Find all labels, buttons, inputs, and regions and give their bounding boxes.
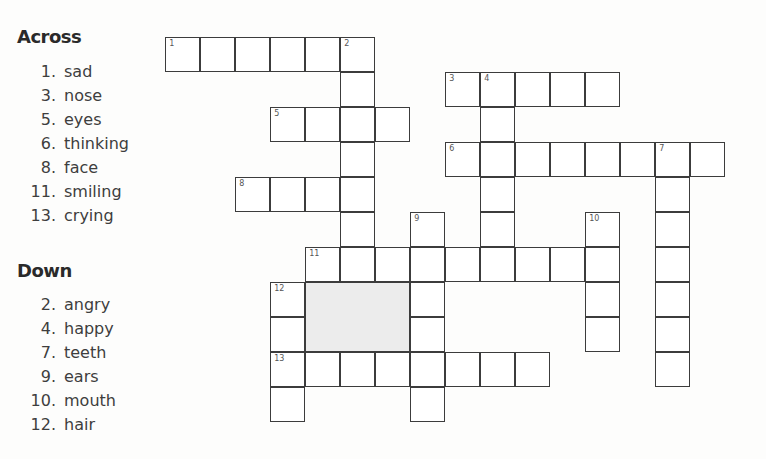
crossword-cell[interactable] [340,72,375,107]
crossword-cell[interactable] [340,177,375,212]
crossword-cell[interactable] [410,387,445,422]
crossword-cell[interactable]: 10 [585,212,620,247]
crossword-cell[interactable] [550,247,585,282]
crossword-cell[interactable]: 9 [410,212,445,247]
crossword-cell[interactable]: 7 [655,142,690,177]
down-clue-list: 2.angry 4.happy 7.teeth 9.ears 10.mouth … [0,293,116,437]
crossword-cell[interactable]: 1 [165,37,200,72]
crossword-cell[interactable] [340,142,375,177]
crossword-cell[interactable] [480,212,515,247]
across-clue: 11.smiling [0,180,129,204]
crossword-cell[interactable] [550,142,585,177]
crossword-cell[interactable] [620,142,655,177]
crossword-cell[interactable] [340,352,375,387]
down-clue: 10.mouth [0,389,116,413]
clue-number: 1 [169,39,174,48]
crossword-cell[interactable] [270,37,305,72]
crossword-cell[interactable] [515,247,550,282]
crossword-cell[interactable] [305,37,340,72]
crossword-cell[interactable] [445,352,480,387]
clue-number: 5 [274,109,279,118]
crossword-cell[interactable] [585,317,620,352]
crossword-cell[interactable]: 11 [305,247,340,282]
crossword-cell[interactable]: 4 [480,72,515,107]
across-clue: 13.crying [0,204,129,228]
down-clue: 2.angry [0,293,116,317]
crossword-cell[interactable] [305,177,340,212]
across-clue: 5.eyes [0,108,129,132]
crossword-cell[interactable] [480,142,515,177]
crossword-cell[interactable] [410,282,445,317]
crossword-cell[interactable] [585,282,620,317]
crossword-cell[interactable] [515,72,550,107]
crossword-cell[interactable] [515,352,550,387]
shaded-block [305,282,410,352]
clue-number: 11 [309,249,319,258]
crossword-cell[interactable] [515,142,550,177]
clue-number: 2 [344,39,349,48]
crossword-cell[interactable] [270,387,305,422]
down-clue: 9.ears [0,365,116,389]
crossword-cell[interactable] [655,352,690,387]
crossword-cell[interactable] [410,352,445,387]
crossword-cell[interactable] [235,37,270,72]
across-clue-list: 1.sad 3.nose 5.eyes 6.thinking 8.face 11… [0,60,129,228]
clue-number: 4 [484,74,489,83]
crossword-cell[interactable] [445,247,480,282]
crossword-cell[interactable] [270,317,305,352]
crossword-cell[interactable] [340,247,375,282]
clue-number: 7 [659,144,664,153]
crossword-cell[interactable] [375,352,410,387]
crossword-cell[interactable] [200,37,235,72]
crossword-cell[interactable] [480,177,515,212]
crossword-cell[interactable]: 3 [445,72,480,107]
clue-number: 9 [414,214,419,223]
crossword-cell[interactable] [655,282,690,317]
across-clue: 1.sad [0,60,129,84]
crossword-cell[interactable]: 6 [445,142,480,177]
crossword-cell[interactable] [305,107,340,142]
clue-number: 12 [274,284,284,293]
crossword-cell[interactable] [585,142,620,177]
crossword-cell[interactable] [270,177,305,212]
across-clue: 8.face [0,156,129,180]
down-clue: 4.happy [0,317,116,341]
down-clue: 7.teeth [0,341,116,365]
crossword-cell[interactable] [655,177,690,212]
crossword-cell[interactable] [340,212,375,247]
crossword-cell[interactable] [585,247,620,282]
across-clue: 6.thinking [0,132,129,156]
down-clue: 12.hair [0,413,116,437]
crossword-cell[interactable]: 5 [270,107,305,142]
crossword-cell[interactable] [655,247,690,282]
crossword-cell[interactable] [655,212,690,247]
clue-number: 3 [449,74,454,83]
clue-number: 10 [589,214,599,223]
crossword-cell[interactable] [305,352,340,387]
clue-number: 6 [449,144,454,153]
crossword-cell[interactable] [690,142,725,177]
crossword-cell[interactable] [585,72,620,107]
across-clue: 3.nose [0,84,129,108]
crossword-cell[interactable]: 13 [270,352,305,387]
crossword-cell[interactable] [375,247,410,282]
crossword-cell[interactable] [655,317,690,352]
crossword-cell[interactable] [480,247,515,282]
crossword-cell[interactable] [550,72,585,107]
crossword-cell[interactable] [480,107,515,142]
crossword-cell[interactable]: 12 [270,282,305,317]
crossword-cell[interactable]: 2 [340,37,375,72]
crossword-cell[interactable] [375,107,410,142]
across-heading: Across [17,26,81,47]
crossword-cell[interactable]: 8 [235,177,270,212]
crossword-cell[interactable] [340,107,375,142]
crossword-cell[interactable] [410,317,445,352]
down-heading: Down [17,260,72,281]
clue-number: 8 [239,179,244,188]
clue-number: 13 [274,354,284,363]
crossword-cell[interactable] [480,352,515,387]
crossword-cell[interactable] [410,247,445,282]
